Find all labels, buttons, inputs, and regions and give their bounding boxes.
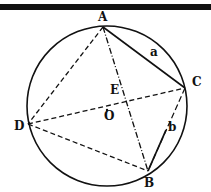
label-C: C — [192, 75, 202, 89]
label-B: B — [144, 176, 154, 190]
label-O: O — [104, 109, 114, 123]
label-D: D — [14, 119, 24, 133]
diagonal-AB — [103, 27, 148, 171]
label-a: a — [150, 45, 158, 59]
chord-DB — [28, 124, 148, 171]
cyclic-quadrilateral-diagram: A B C D E O a b — [0, 0, 211, 192]
label-A: A — [97, 10, 108, 24]
label-E: E — [110, 83, 119, 97]
label-b: b — [168, 120, 176, 134]
segment-b — [148, 130, 166, 171]
chord-AC — [103, 27, 185, 88]
